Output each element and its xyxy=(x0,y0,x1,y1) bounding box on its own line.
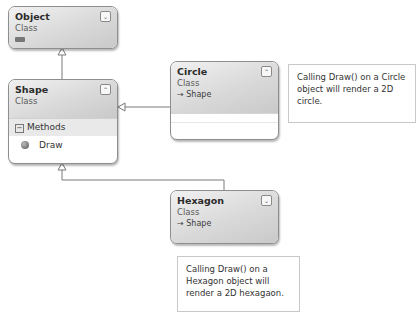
class-name: Circle xyxy=(177,66,272,78)
methods-section-header[interactable]: −Methods xyxy=(9,118,117,136)
class-kind: Class xyxy=(177,207,272,218)
class-object[interactable]: Object Class ⌄ xyxy=(8,6,118,49)
collapse-section-icon[interactable]: − xyxy=(15,124,24,133)
class-name: Object xyxy=(15,11,111,23)
compartment-divider xyxy=(171,122,278,123)
class-kind: Class xyxy=(15,96,111,107)
section-label: Methods xyxy=(27,122,65,132)
compartment-divider xyxy=(171,113,278,122)
expand-chevron-icon[interactable]: ⌄ xyxy=(261,195,272,206)
class-hexagon[interactable]: Hexagon Class → Shape ⌄ xyxy=(170,190,279,244)
method-label: Draw xyxy=(39,140,63,150)
collapse-chevron-icon[interactable]: ⌃ xyxy=(261,66,272,77)
method-icon xyxy=(21,141,29,149)
base-class-label: → Shape xyxy=(177,89,272,100)
class-shape[interactable]: Shape Class ⌃ −Methods Draw xyxy=(8,79,118,164)
interface-lollipop-icon xyxy=(15,34,111,44)
class-name: Hexagon xyxy=(177,195,272,207)
collapse-chevron-icon[interactable]: ⌃ xyxy=(100,84,111,95)
class-name: Shape xyxy=(15,84,111,96)
comment-hexagon[interactable]: Calling Draw() on a Hexagon object will … xyxy=(177,256,300,312)
expand-chevron-icon[interactable]: ⌄ xyxy=(100,11,111,22)
comment-circle[interactable]: Calling Draw() on a Circle object will r… xyxy=(288,64,416,123)
class-kind: Class xyxy=(15,23,111,34)
method-draw[interactable]: Draw xyxy=(9,136,117,154)
base-class-label: → Shape xyxy=(177,218,272,229)
class-kind: Class xyxy=(177,78,272,89)
class-diagram-canvas[interactable]: Object Class ⌄ Shape Class ⌃ −Methods Dr… xyxy=(0,0,419,326)
class-circle[interactable]: Circle Class → Shape ⌃ xyxy=(170,61,279,140)
